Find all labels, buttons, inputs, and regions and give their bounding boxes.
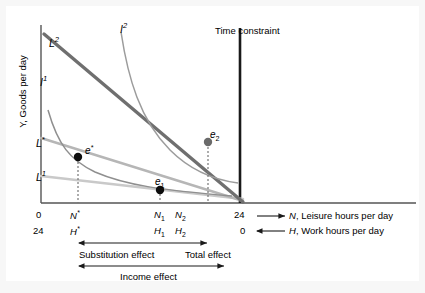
time-constraint-label: Time constraint (215, 26, 280, 36)
y-axis-label: Y, Goods per day (17, 37, 28, 147)
tick-n1: N1 (154, 210, 165, 223)
tick-n2: N2 (175, 210, 186, 223)
point-e1-label: e1 (155, 177, 165, 189)
work-axis-caption: H, Work hours per day (289, 226, 384, 236)
tick-h1: H1 (154, 226, 165, 239)
origin-work-24: 24 (33, 226, 44, 236)
budget-line-L1-label: L1 (36, 170, 46, 182)
tick-n-star: N* (70, 210, 80, 221)
origin-leisure-zero: 0 (36, 210, 41, 220)
indifference-curve-I2-label: I2 (120, 22, 127, 34)
point-e2-label: e2 (210, 130, 220, 142)
tick-h-star: H* (70, 226, 80, 237)
tick-h2: H2 (175, 226, 186, 239)
income-effect-label: Income effect (120, 272, 177, 282)
budget-line-L2-label: L2 (49, 36, 59, 48)
total-effect-label: Total effect (185, 250, 231, 260)
budget-line-Lstar (41, 138, 243, 201)
point-e-star (74, 153, 82, 161)
indifference-curve-I1-label: I1 (40, 75, 47, 87)
point-e-star-label: e* (85, 144, 93, 156)
indifference-curve-I1 (48, 110, 232, 196)
budget-line-L1 (41, 176, 243, 199)
budget-line-Lstar-label: L* (36, 136, 45, 148)
right-work-0: 0 (240, 226, 245, 236)
right-leisure-24: 24 (234, 210, 245, 220)
substitution-effect-label: Substitution effect (79, 250, 154, 260)
leisure-axis-caption: N, Leisure hours per day (289, 211, 393, 221)
indifference-curve-I2 (121, 32, 238, 183)
figure-container: Y, Goods per day L2 L* L1 I1 I2 e* e1 e2… (0, 0, 425, 293)
